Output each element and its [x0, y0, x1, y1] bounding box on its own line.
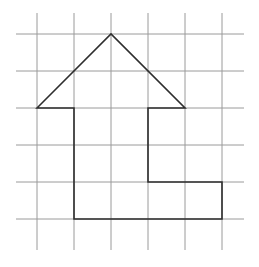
arrow-shape-outline — [37, 34, 222, 219]
grid-diagram — [0, 0, 259, 267]
horizontal-grid-lines — [16, 34, 244, 219]
vertical-grid-lines — [37, 13, 222, 250]
